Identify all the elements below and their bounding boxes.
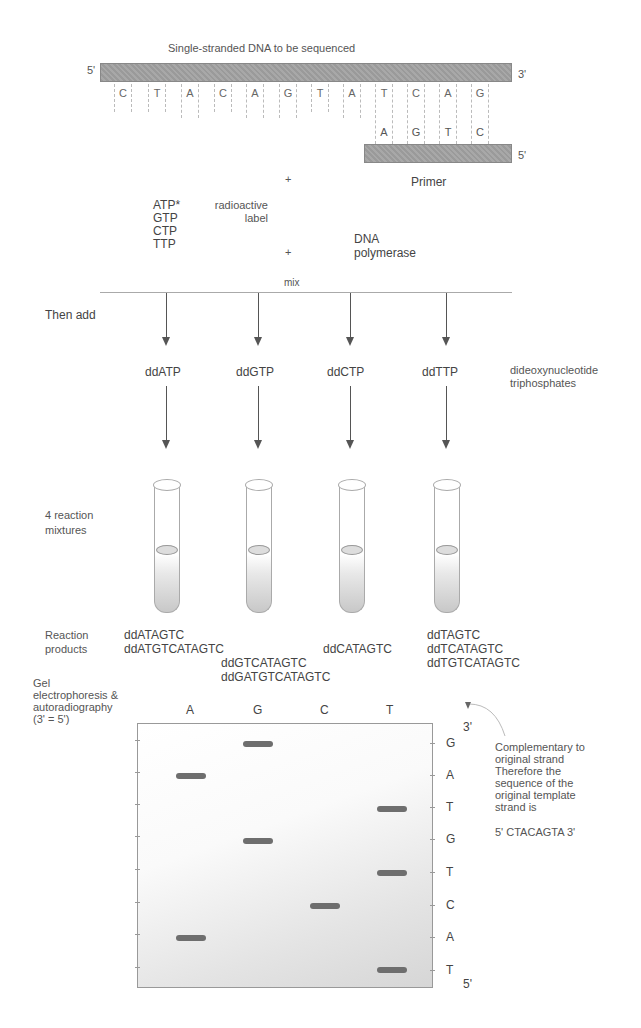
read-base: C (446, 898, 455, 912)
read-base: G (446, 832, 455, 846)
lane-label-t: T (386, 703, 393, 717)
radioactive-label-note: radioactive label (204, 199, 268, 225)
dideoxy-description: dideoxynucleotide triphosphates (510, 364, 598, 390)
template-base: C (214, 84, 232, 112)
read-base: A (446, 768, 454, 782)
read-base: T (446, 865, 453, 879)
gel-tick (430, 937, 435, 938)
reaction-products-label: Reaction products (45, 628, 88, 656)
read-base: T (446, 800, 453, 814)
gel-tick (135, 740, 140, 741)
gel-tick (135, 804, 140, 805)
gel-band-g (243, 838, 273, 844)
nucleotide-ttp: TTP (153, 238, 180, 251)
arrow-line (446, 293, 447, 337)
read-base: G (446, 736, 455, 750)
arrow-down-icon (442, 440, 450, 449)
products-c: ddCATAGTC (323, 642, 392, 656)
gel-tick (135, 967, 140, 968)
plus-sign: + (285, 173, 291, 186)
products-g: ddGTCATAGTC ddGATGTCATAGTC (221, 656, 330, 684)
lane-label-c: C (320, 703, 329, 717)
read-base: T (446, 963, 453, 977)
gel-band-t (377, 870, 407, 876)
arrow-down-icon (442, 337, 450, 346)
gel-band-t (377, 806, 407, 812)
template-5prime-label: 5' (87, 64, 95, 77)
gel-tick (135, 772, 140, 773)
template-base: G (279, 84, 297, 118)
primer-strand (364, 144, 512, 163)
gel-image (137, 723, 433, 988)
conclusion-sequence: 5' CTACAGTA 3' (495, 826, 575, 839)
primer-base: C (475, 126, 485, 139)
primer-base: G (411, 126, 421, 139)
tube-meniscus (156, 545, 178, 555)
lane-label-a: A (186, 703, 194, 717)
template-base: A (246, 84, 264, 118)
tube-rim (153, 479, 181, 491)
gel-tick (430, 905, 435, 906)
arrow-down-icon (162, 440, 170, 449)
gel-tick (430, 872, 435, 873)
plus-sign: + (285, 246, 291, 259)
tube-meniscus (248, 545, 270, 555)
gel-band-a (176, 935, 206, 941)
arrow-down-icon (162, 337, 170, 346)
primer-label: Primer (411, 175, 446, 189)
read-base: A (446, 930, 454, 944)
gel-tick (135, 934, 140, 935)
read-direction-arrow-icon (455, 698, 515, 738)
gel-band-c (310, 903, 340, 909)
template-strand (100, 63, 512, 82)
tube-rim (245, 479, 273, 491)
template-base: T (311, 84, 329, 112)
gel-step-label: Gel electrophoresis & autoradiography (3… (33, 677, 118, 725)
arrow-line (446, 386, 447, 440)
primer-5prime-label: 5' (518, 149, 526, 162)
gel-tick (430, 970, 435, 971)
mix-label: mix (284, 276, 300, 289)
arrow-line (166, 386, 167, 440)
gel-tick (430, 743, 435, 744)
gel-band-g (243, 741, 273, 747)
reaction-mixtures-label: 4 reaction mixtures (45, 508, 93, 538)
arrow-line (258, 293, 259, 337)
arrow-line (258, 386, 259, 440)
template-base: A (181, 84, 199, 118)
ddatp-label: ddATP (145, 365, 181, 379)
arrow-down-icon (346, 337, 354, 346)
gel-tick (135, 902, 140, 903)
gel-tick (135, 869, 140, 870)
arrow-line (166, 293, 167, 337)
tube-meniscus (436, 545, 458, 555)
primer-base: A (379, 126, 389, 139)
products-t: ddTAGTC ddTCATAGTC ddTGTCATAGTC (427, 628, 520, 670)
gel-tick (430, 807, 435, 808)
arrow-down-icon (254, 337, 262, 346)
tube-rim (338, 479, 366, 491)
gel-band-a (176, 773, 206, 779)
mix-divider (100, 292, 512, 293)
tube-meniscus (341, 545, 363, 555)
gel-band-t (377, 967, 407, 973)
gel-tick (430, 775, 435, 776)
arrow-line (350, 386, 351, 440)
arrow-down-icon (254, 440, 262, 449)
template-strand-title: Single-stranded DNA to be sequenced (168, 42, 355, 55)
conclusion-text: Complementary to original strand Therefo… (495, 741, 585, 813)
primer-base: T (443, 126, 453, 139)
template-3prime-label: 3' (518, 68, 526, 81)
template-base: A (343, 84, 361, 118)
dna-polymerase-label: DNA polymerase (354, 232, 416, 260)
then-add-label: Then add (45, 308, 96, 322)
arrow-down-icon (346, 440, 354, 449)
ddttp-label: ddTTP (422, 365, 458, 379)
gel-tick (135, 836, 140, 837)
template-base: T (148, 84, 166, 112)
ddgtp-label: ddGTP (236, 365, 274, 379)
ddctp-label: ddCTP (327, 365, 364, 379)
template-base: C (114, 84, 132, 112)
nucleotide-list: ATP* GTP CTP TTP (153, 199, 180, 251)
tube-rim (433, 479, 461, 491)
